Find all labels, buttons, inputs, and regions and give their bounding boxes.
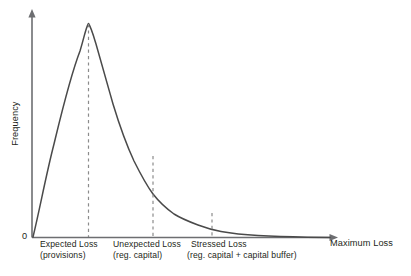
y-axis-title: Frequency — [10, 86, 21, 162]
expected-loss-label: Expected Loss (provisions) — [40, 239, 98, 261]
origin-tick-label: 0 — [22, 231, 27, 242]
unexpected-loss-label-line2: (reg. capital) — [113, 250, 181, 261]
loss-distribution-curve — [33, 24, 330, 238]
stressed-loss-label-line2: (reg. capital + capital buffer) — [187, 250, 297, 261]
unexpected-loss-label: Unexpected Loss (reg. capital) — [113, 239, 181, 261]
stressed-loss-label-line1: Stressed Loss — [191, 239, 297, 250]
loss-distribution-figure: 0 Frequency Maximum Loss Expected Loss (… — [0, 0, 411, 276]
unexpected-loss-label-line1: Unexpected Loss — [113, 239, 181, 250]
x-axis-title: Maximum Loss — [330, 238, 393, 249]
y-axis-arrow-icon — [28, 9, 35, 18]
expected-loss-label-line2: (provisions) — [40, 250, 98, 261]
distribution-plot-canvas — [0, 0, 411, 276]
stressed-loss-label: Stressed Loss (reg. capital + capital bu… — [191, 239, 297, 261]
expected-loss-label-line1: Expected Loss — [40, 239, 98, 250]
